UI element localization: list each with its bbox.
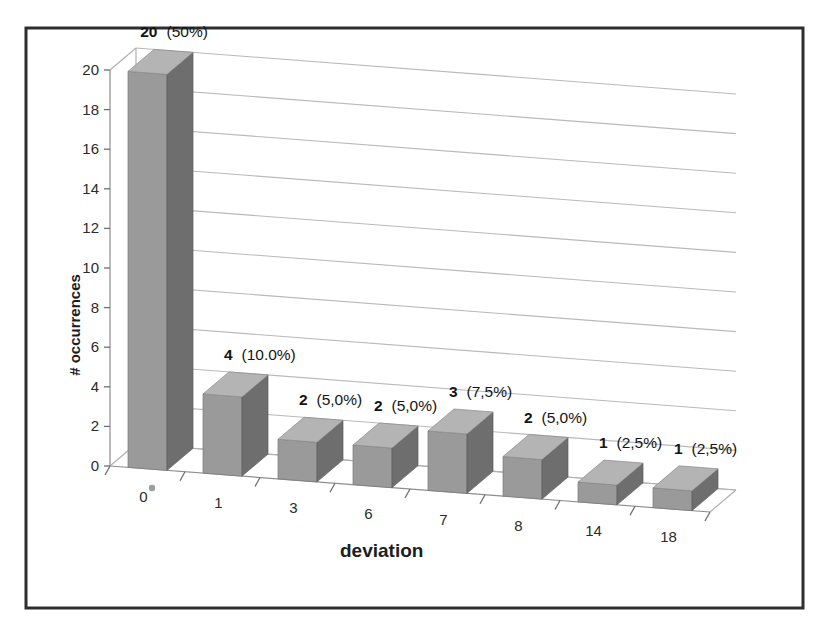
y-tick-label: 8 <box>91 299 99 316</box>
bar-front-face <box>428 431 467 493</box>
bar-front-face <box>653 488 692 511</box>
bar-front-face <box>278 439 317 482</box>
data-label-value: 20 <box>140 23 157 40</box>
data-label: 20(50%) <box>140 23 208 40</box>
y-tick-label: 6 <box>91 338 99 355</box>
bar-3d <box>203 372 268 476</box>
y-tick-label: 18 <box>82 101 99 118</box>
occurrences-by-deviation-chart: 02468101214161820 0136781418 20(50%)4(10… <box>0 0 819 634</box>
x-tick-label: 0 <box>139 488 147 505</box>
y-tick-label: 10 <box>82 259 99 276</box>
bar-front-face <box>203 394 242 476</box>
x-tick-label: 3 <box>289 499 297 516</box>
x-tick-label: 1 <box>214 494 222 511</box>
bar-side-face <box>167 52 193 470</box>
y-tick-label: 14 <box>82 180 99 197</box>
bar-front-face <box>353 445 392 488</box>
data-label-percent: (5,0%) <box>317 391 363 408</box>
bar-3d <box>128 49 193 470</box>
chart-background <box>0 0 819 634</box>
bar-front-face <box>503 457 542 500</box>
data-label-value: 1 <box>674 440 683 457</box>
data-label-percent: (2,5%) <box>692 440 738 457</box>
y-tick-label: 4 <box>91 378 99 395</box>
data-label-percent: (2,5%) <box>617 434 663 451</box>
y-tick-label: 0 <box>91 457 99 474</box>
x-tick-label: 8 <box>514 517 522 534</box>
x-tick-label: 6 <box>364 505 372 522</box>
y-tick-label: 2 <box>91 417 99 434</box>
data-label-value: 2 <box>524 409 533 426</box>
bar-front-face <box>578 482 617 505</box>
data-label-percent: (5,0%) <box>392 397 438 414</box>
y-tick-label: 16 <box>82 140 99 157</box>
data-label-value: 2 <box>299 391 308 408</box>
stray-speck-artifact <box>149 485 155 491</box>
data-label-value: 2 <box>374 397 383 414</box>
data-label-value: 1 <box>599 434 608 451</box>
x-tick-label: 7 <box>439 511 447 528</box>
x-tick-label: 14 <box>585 522 602 539</box>
y-tick-label: 20 <box>82 61 99 78</box>
data-label-value: 3 <box>449 383 458 400</box>
data-label-percent: (10.0%) <box>242 346 296 363</box>
y-axis-title: # occurrences <box>66 274 83 376</box>
data-label-value: 4 <box>224 346 233 363</box>
data-label-percent: (7,5%) <box>467 383 513 400</box>
bar-front-face <box>128 71 167 470</box>
y-tick-label: 12 <box>82 219 99 236</box>
data-label-percent: (50%) <box>167 23 208 40</box>
x-axis-title: deviation <box>340 540 423 561</box>
data-label-percent: (5,0%) <box>542 409 588 426</box>
x-tick-label: 18 <box>660 528 677 545</box>
